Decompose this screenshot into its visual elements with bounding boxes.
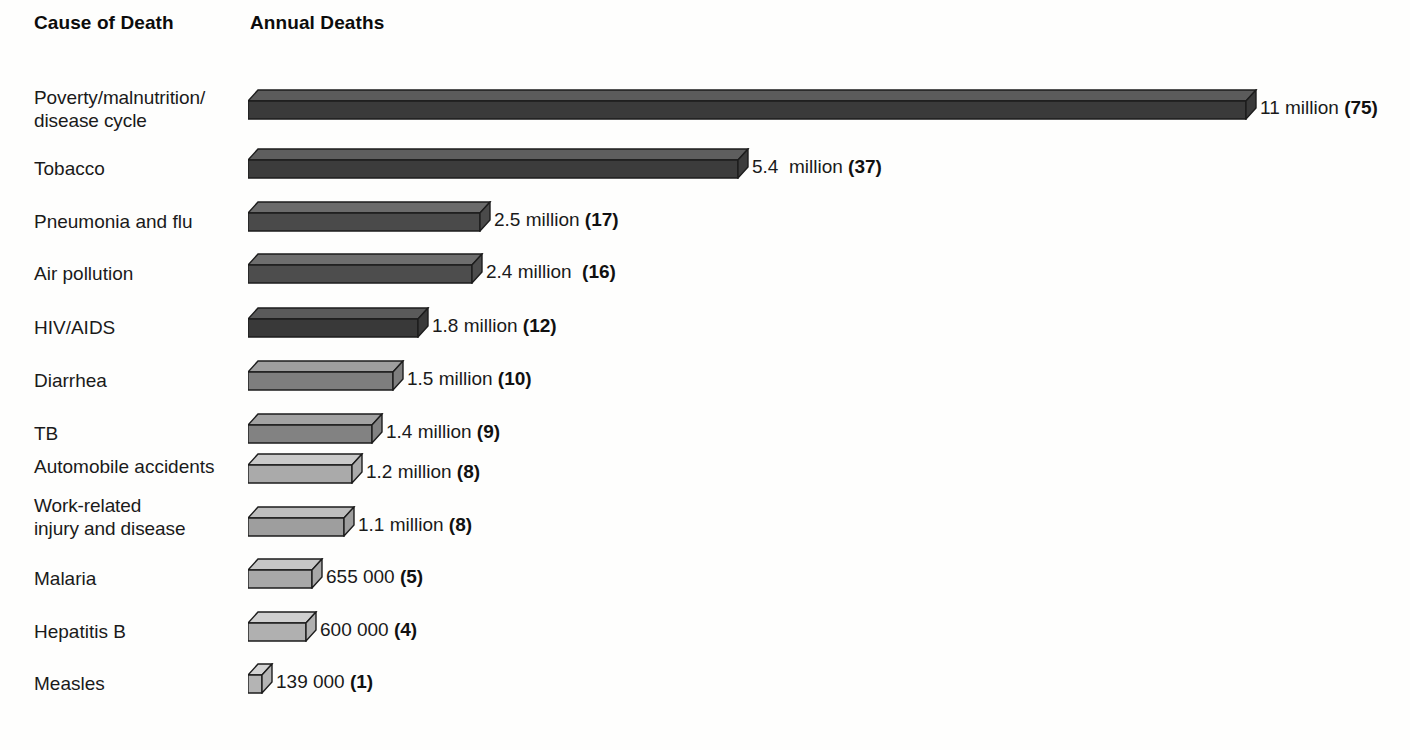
bar-value-number: 1.2 million: [366, 461, 457, 482]
bar-value-number: 1.4 million: [386, 421, 477, 442]
chart-row: Automobile accidents1.2 million (8): [0, 447, 1410, 503]
bar-front-face: [248, 160, 738, 178]
bar-value-number: 1.5 million: [407, 368, 498, 389]
category-label: HIV/AIDS: [34, 316, 115, 339]
chart-row: Poverty/malnutrition/ disease cycle11 mi…: [0, 83, 1410, 139]
bar-value-percent: (4): [394, 619, 417, 640]
chart-row: Hepatitis B600 000 (4): [0, 605, 1410, 661]
category-label: Tobacco: [34, 157, 105, 180]
bar-top-face: [248, 361, 403, 372]
bar-front-face: [248, 570, 312, 588]
category-label: Work-related injury and disease: [34, 494, 185, 540]
bar-top-face: [248, 414, 382, 425]
bar: [248, 558, 324, 589]
bar-value-label: 1.4 million (9): [386, 422, 500, 441]
bar: [248, 506, 356, 537]
bar-value-label: 139 000 (1): [276, 672, 373, 691]
bar-value-percent: (12): [523, 315, 557, 336]
category-label: TB: [34, 422, 58, 445]
bar-front-face: [248, 675, 262, 693]
chart-row: Diarrhea1.5 million (10): [0, 354, 1410, 410]
bar: [248, 413, 384, 444]
bar-value-label: 600 000 (4): [320, 620, 417, 639]
chart-row: Tobacco5.4 million (37): [0, 142, 1410, 198]
column-header-annual-deaths: Annual Deaths: [250, 12, 384, 34]
bar-front-face: [248, 623, 306, 641]
bar-value-label: 1.5 million (10): [407, 369, 532, 388]
category-label: Automobile accidents: [34, 455, 215, 478]
chart-row: Pneumonia and flu2.5 million (17): [0, 195, 1410, 251]
bar-value-label: 5.4 million (37): [752, 157, 882, 176]
bar: [248, 201, 492, 232]
bar: [248, 253, 484, 284]
bar-top-face: [248, 308, 428, 319]
bar-value-number: 2.5 million: [494, 209, 585, 230]
bar-front-face: [248, 319, 418, 337]
column-header-cause-of-death: Cause of Death: [34, 12, 174, 34]
bar-value-number: 600 000: [320, 619, 394, 640]
bar-value-percent: (5): [400, 566, 423, 587]
category-label: Poverty/malnutrition/ disease cycle: [34, 86, 205, 132]
bar: [248, 611, 318, 642]
bar-value-percent: (9): [477, 421, 500, 442]
bar-top-face: [248, 612, 316, 623]
bar-top-face: [248, 149, 748, 160]
bar-front-face: [248, 101, 1246, 119]
bar: [248, 663, 274, 694]
bar: [248, 453, 364, 484]
bar: [248, 148, 750, 179]
bar-value-percent: (10): [498, 368, 532, 389]
bar-value-percent: (8): [449, 514, 472, 535]
bar-value-label: 1.2 million (8): [366, 462, 480, 481]
category-label: Diarrhea: [34, 369, 107, 392]
chart-row: Air pollution2.4 million (16): [0, 247, 1410, 303]
bar-value-label: 655 000 (5): [326, 567, 423, 586]
bar-front-face: [248, 425, 372, 443]
chart-row: Work-related injury and disease1.1 milli…: [0, 500, 1410, 556]
chart-row: Measles139 000 (1): [0, 657, 1410, 713]
bar-top-face: [248, 559, 322, 570]
bar-front-face: [248, 372, 393, 390]
bar-front-face: [248, 465, 352, 483]
category-label: Malaria: [34, 567, 96, 590]
bar-value-number: 139 000: [276, 671, 350, 692]
bar-value-number: 655 000: [326, 566, 400, 587]
bar: [248, 307, 430, 338]
bar-value-percent: (16): [582, 261, 616, 282]
bar-top-face: [248, 254, 482, 265]
bar: [248, 360, 405, 391]
bar-top-face: [248, 454, 362, 465]
bar-value-percent: (17): [585, 209, 619, 230]
chart-row: HIV/AIDS1.8 million (12): [0, 301, 1410, 357]
category-label: Pneumonia and flu: [34, 210, 192, 233]
bar-front-face: [248, 213, 480, 231]
bar-front-face: [248, 265, 472, 283]
bar-value-number: 1.8 million: [432, 315, 523, 336]
bar-value-label: 11 million (75): [1260, 98, 1378, 117]
category-label: Measles: [34, 672, 105, 695]
bar-value-number: 11 million: [1260, 97, 1344, 118]
bar-value-percent: (8): [457, 461, 480, 482]
bar-front-face: [248, 518, 344, 536]
bar-value-percent: (37): [848, 156, 882, 177]
death-causes-bar-chart: Cause of Death Annual Deaths Poverty/mal…: [0, 0, 1410, 750]
chart-row: Malaria655 000 (5): [0, 552, 1410, 608]
bar-value-percent: (1): [350, 671, 373, 692]
bar-value-label: 2.4 million (16): [486, 262, 616, 281]
bar-top-face: [248, 202, 490, 213]
bar: [248, 89, 1258, 120]
bar-value-percent: (75): [1344, 97, 1378, 118]
bar-value-label: 2.5 million (17): [494, 210, 619, 229]
category-label: Air pollution: [34, 262, 133, 285]
bar-value-label: 1.8 million (12): [432, 316, 557, 335]
bar-top-face: [248, 90, 1256, 101]
bar-value-number: 1.1 million: [358, 514, 449, 535]
bar-value-number: 5.4 million: [752, 156, 848, 177]
bar-value-label: 1.1 million (8): [358, 515, 472, 534]
bar-value-number: 2.4 million: [486, 261, 582, 282]
category-label: Hepatitis B: [34, 620, 126, 643]
bar-top-face: [248, 507, 354, 518]
